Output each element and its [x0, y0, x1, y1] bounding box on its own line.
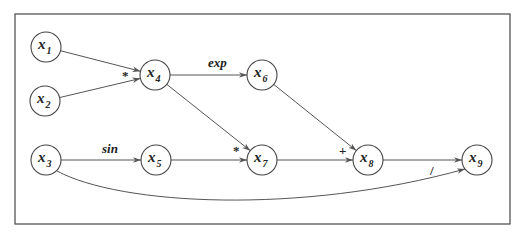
node-x5: x5 [141, 145, 171, 175]
node-x6: x6 [247, 60, 277, 90]
node-x7: x7 [247, 145, 277, 175]
node-x9: x9 [462, 145, 492, 175]
node-x4: x4 [140, 60, 170, 90]
operation-label: + [339, 143, 346, 158]
node-x8: x8 [353, 145, 383, 175]
operation-label: / [429, 163, 434, 178]
operation-label: * [233, 143, 240, 158]
node-x1: x1 [31, 32, 61, 62]
node-x2: x2 [30, 86, 60, 116]
node-x3: x3 [31, 145, 61, 175]
operation-label: exp [208, 55, 227, 70]
computation-graph-diagram: x1x2x3x4x5x6x7x8x9 *expsin*+/ [0, 0, 524, 236]
edge-x4-to-x7 [167, 84, 251, 150]
nodes-group: x1x2x3x4x5x6x7x8x9 [30, 32, 492, 175]
operation-label: sin [101, 141, 118, 156]
diagram-frame [15, 14, 510, 224]
operation-label: * [122, 68, 129, 83]
edge-x6-to-x8 [274, 84, 357, 150]
